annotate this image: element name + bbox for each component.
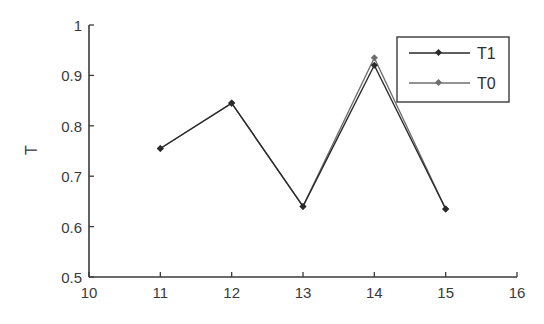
y-tick-label: 0.5 [61, 269, 82, 286]
y-tick-label: 0.7 [61, 168, 82, 185]
data-point-marker [371, 54, 378, 61]
y-tick-label: 0.6 [61, 219, 82, 236]
y-tick-label: 0.8 [61, 118, 82, 135]
legend: T1 T0 [397, 37, 509, 102]
x-tick-label: 11 [153, 284, 169, 301]
legend-label-t1: T1 [477, 45, 496, 62]
data-point-marker [157, 145, 164, 152]
x-tick-label: 13 [295, 284, 312, 301]
data-point-marker [442, 205, 449, 212]
y-tick-label: 0.9 [61, 67, 82, 84]
x-tick-label: 12 [223, 284, 240, 301]
x-tick-label: 10 [81, 284, 98, 301]
y-tick-label: 1 [74, 17, 82, 34]
x-tick-label: 14 [366, 284, 383, 301]
x-tick-label: 16 [509, 284, 526, 301]
x-tick-label: 15 [437, 284, 454, 301]
line-chart: 10111213141516 0.50.60.70.80.91 T T1 T0 [0, 0, 544, 324]
legend-label-t0: T0 [477, 75, 496, 92]
y-axis-label: T [23, 145, 40, 155]
